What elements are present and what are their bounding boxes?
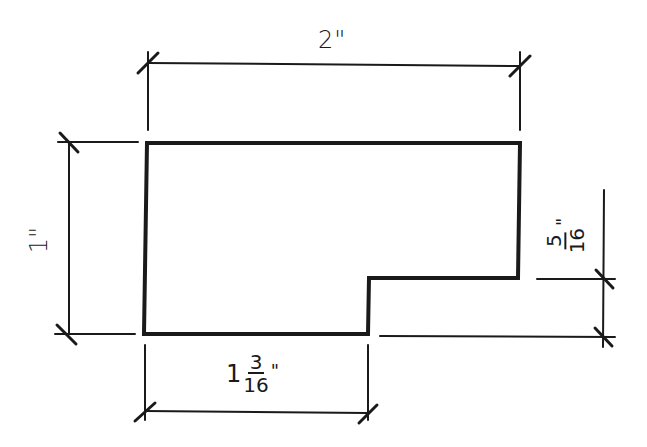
overall-width-label: 2" xyxy=(318,26,346,54)
bottom-width-inch-mark: " xyxy=(271,360,279,381)
notch-height-numerator: 5 xyxy=(544,232,566,249)
notch-height-denominator: 16 xyxy=(566,228,587,253)
part-outline xyxy=(144,143,520,334)
overall-height-label: 1" xyxy=(25,227,53,253)
overall-height-dimension xyxy=(55,133,138,344)
bottom-width-whole: 1 xyxy=(226,360,241,388)
bottom-width-numerator: 3 xyxy=(248,352,265,374)
overall-width-dimension xyxy=(138,52,530,130)
notch-height-label: 5 16 " xyxy=(544,218,587,254)
bottom-width-label: 1 3 16 " xyxy=(226,352,279,395)
bottom-width-denominator: 16 xyxy=(243,374,268,395)
notch-height-inch-mark: " xyxy=(552,218,573,226)
bottom-width-fraction: 3 16 xyxy=(243,352,268,395)
notch-height-fraction: 5 16 xyxy=(544,228,587,253)
notch-height-dimension xyxy=(380,190,615,347)
